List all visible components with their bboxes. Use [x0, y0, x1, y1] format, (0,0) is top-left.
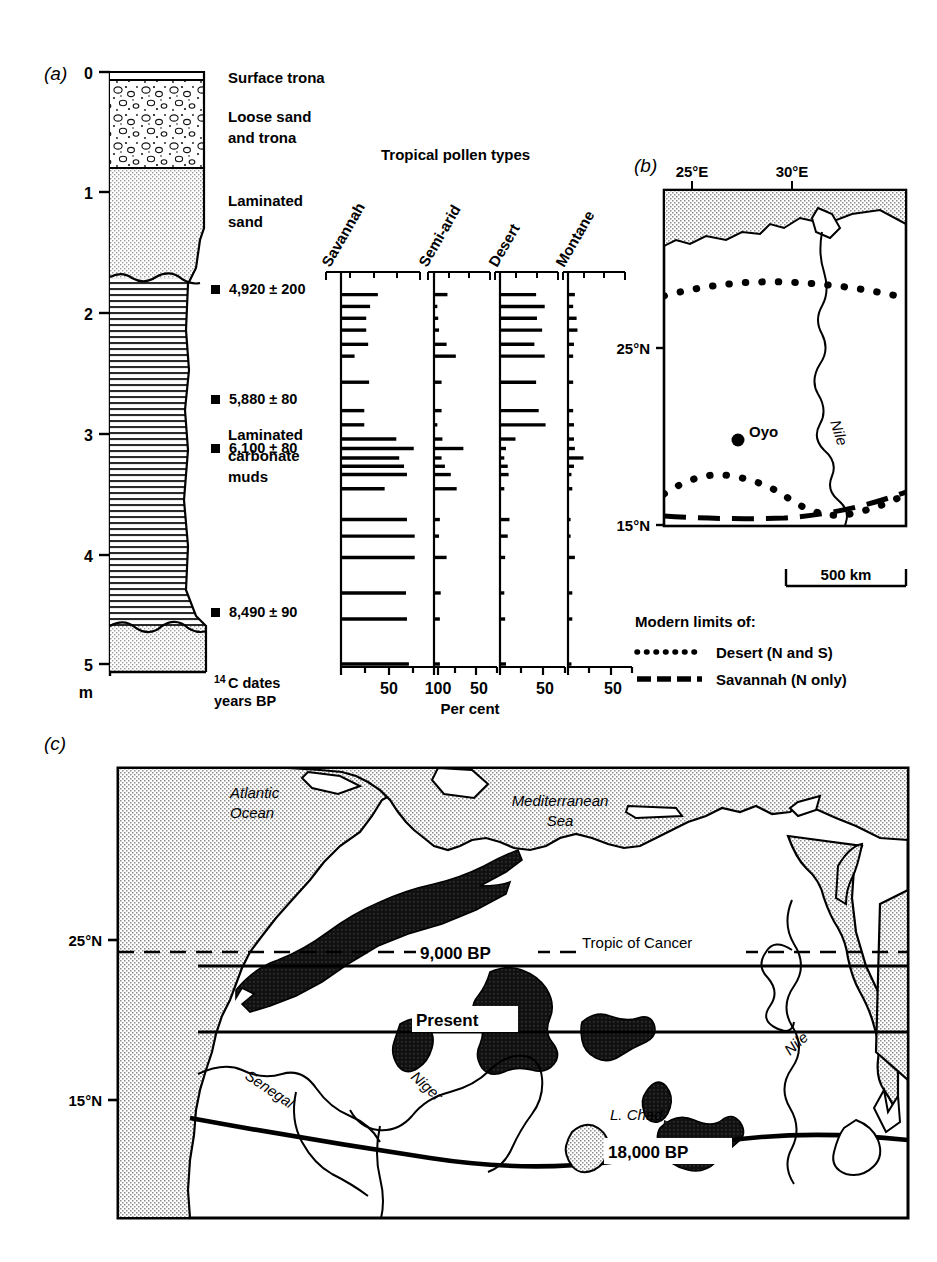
pollen-xtick-des-50: 50	[536, 680, 554, 697]
depth-axis: 0 1 2 3 4 5 m	[79, 65, 110, 701]
panel-c-atlantic-label-2: Ocean	[230, 804, 274, 821]
panel-b-id: (b)	[634, 155, 657, 176]
date-label-3: 6,100 ± 80	[229, 440, 297, 456]
panel-c-label-18000bp: 18,000 BP	[608, 1143, 688, 1162]
litho-label-loose-sand-1: Loose sand	[228, 108, 311, 125]
unit-laminated-carbonate-muds	[108, 278, 218, 626]
panel-a-id: (a)	[44, 63, 67, 84]
panel-b-scale-bar: 500 km	[786, 566, 906, 586]
dates-caption-line1: C dates	[228, 675, 280, 691]
panel-c-lat-15n: 15°N	[68, 1092, 102, 1109]
date-label-4: 8,490 ± 90	[229, 604, 297, 620]
date-marker	[211, 395, 220, 404]
figure-root: (a) 0 1 2 3 4 5 m	[0, 0, 937, 1262]
panel-b-site-label-oyo: Oyo	[749, 423, 778, 440]
panel-b-scale-label: 500 km	[821, 566, 872, 583]
panel-c-atlantic-label-1: Atlantic	[229, 784, 280, 801]
pollen-col-label-desert: Desert	[485, 221, 523, 270]
panel-c-label-tropic: Tropic of Cancer	[582, 934, 692, 951]
depth-unit-label: m	[79, 684, 93, 701]
litho-label-loose-sand-2: and trona	[228, 129, 297, 146]
panel-c-med-label-2: Sea	[547, 812, 574, 829]
panel-b-legend-title: Modern limits of:	[635, 613, 756, 630]
date-label-2: 5,880 ± 80	[229, 391, 297, 407]
panel-b: (b) 25°E 30°E Nile 25°N 15°N Oyo	[616, 155, 906, 688]
pollen-col-label-savannah: Savannah	[318, 200, 368, 270]
litho-label-surface-trona: Surface trona	[228, 69, 325, 86]
pollen-col-label-montane: Montane	[552, 208, 598, 270]
litho-label-lam-sand-1: Laminated	[228, 192, 303, 209]
litho-label-lam-sand-2: sand	[228, 213, 263, 230]
panel-c-lat-25n: 25°N	[68, 932, 102, 949]
panel-c-arabia	[876, 890, 908, 1080]
unit-loose-sand-trona	[108, 80, 218, 168]
panel-c-label-present: Present	[416, 1011, 479, 1030]
panel-b-legend-label-desert: Desert (N and S)	[716, 644, 833, 661]
pollen-xtick-sav-100: 100	[425, 680, 452, 697]
litho-label-carb-3: muds	[228, 468, 268, 485]
depth-tick-4: 4	[84, 548, 93, 565]
pollen-top-axes	[326, 272, 625, 280]
panel-b-lat-15n: 15°N	[616, 517, 650, 534]
panel-b-legend: Modern limits of: Desert (N and S) Savan…	[635, 613, 847, 688]
dates-caption-line2: years BP	[214, 693, 276, 709]
panel-c-island-2	[626, 806, 682, 818]
unit-laminated-sand	[108, 168, 218, 278]
panel-a: (a) 0 1 2 3 4 5 m	[44, 63, 632, 717]
depth-tick-0: 0	[84, 65, 93, 82]
pollen-title: Tropical pollen types	[381, 146, 530, 163]
panel-b-lon-25e: 25°E	[676, 163, 709, 180]
depth-tick-2: 2	[84, 306, 93, 323]
date-label-1: 4,920 ± 200	[229, 281, 306, 297]
pollen-xtick-semi-50: 50	[470, 680, 488, 697]
depth-tick-3: 3	[84, 427, 93, 444]
radiocarbon-dates: 4,920 ± 200 5,880 ± 80 6,100 ± 80 8,490 …	[211, 281, 306, 620]
panel-b-frame	[664, 190, 906, 526]
panel-b-lat-25n: 25°N	[616, 340, 650, 357]
pollen-col-label-semiarid: Semi-arid	[415, 202, 464, 270]
panel-b-site-marker-oyo	[732, 434, 745, 447]
pollen-bottom-axes	[341, 667, 632, 675]
date-marker	[211, 444, 220, 453]
core-column	[108, 72, 218, 686]
panel-c-lake-chad	[566, 1125, 609, 1172]
depth-tick-5: 5	[84, 657, 93, 674]
date-marker	[211, 608, 220, 617]
pollen-xtick-mon-50: 50	[604, 680, 622, 697]
unit-surface-trona	[108, 72, 218, 80]
date-marker	[211, 285, 220, 294]
panel-b-lon-30e: 30°E	[776, 163, 809, 180]
pollen-axis-label: Per cent	[440, 700, 499, 717]
panel-c-med-label-1: Mediterranean	[512, 792, 609, 809]
depth-tick-1: 1	[84, 185, 93, 202]
pollen-bars	[341, 295, 583, 664]
panel-c-id: (c)	[44, 733, 66, 754]
pollen-xtick-sav-50: 50	[380, 680, 398, 697]
panel-b-legend-label-savannah: Savannah (N only)	[716, 671, 847, 688]
pollen-diagram: Tropical pollen types Savannah Semi-arid…	[318, 146, 632, 717]
panel-c: (c) Atlantic Ocean Mediterranean Sea	[44, 733, 908, 1222]
figure-svg: (a) 0 1 2 3 4 5 m	[0, 0, 937, 1262]
dates-caption: 14 C dates years BP	[214, 673, 280, 709]
panel-c-lake-label: L. Chad	[610, 1106, 663, 1123]
panel-c-label-9000bp: 9,000 BP	[420, 944, 491, 963]
dates-caption-superscript: 14	[214, 673, 226, 685]
unit-basal-sand	[108, 626, 218, 686]
